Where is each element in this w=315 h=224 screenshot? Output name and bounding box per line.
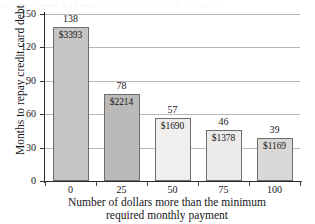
scan-bleed-artifact: the minimum payment on a credit card bal… <box>0 0 315 11</box>
bar-amount-label: $1378 <box>201 133 247 143</box>
x-axis-tick <box>147 181 148 186</box>
bar-value-label: 39 <box>252 125 298 135</box>
bar-amount-label: $1690 <box>150 121 196 131</box>
x-axis-tick-label: 100 <box>255 184 295 195</box>
y-axis-tick <box>40 14 45 15</box>
x-axis-tick-label: 25 <box>102 184 142 195</box>
y-axis-tick-label: 150 <box>10 9 36 19</box>
x-axis-tick-label: 75 <box>204 184 244 195</box>
y-axis-tick-label: 60 <box>10 109 36 119</box>
x-axis-title: Number of dollars more than the minimum … <box>36 196 298 222</box>
y-axis-tick-label: 90 <box>10 76 36 86</box>
x-axis-tick <box>300 181 301 186</box>
x-axis-tick <box>96 181 97 186</box>
y-axis-tick <box>40 114 45 115</box>
x-axis-line <box>44 181 302 182</box>
x-axis-title-line-2: required monthly payment <box>36 209 298 222</box>
bar-amount-label: $1169 <box>252 141 298 151</box>
y-axis-tick <box>40 148 45 149</box>
y-axis-tick <box>40 47 45 48</box>
bar-value-label: 46 <box>201 117 247 127</box>
bar-value-label: 57 <box>150 105 196 115</box>
y-axis-tick <box>40 81 45 82</box>
y-axis-tick-label: 30 <box>10 143 36 153</box>
bar <box>53 27 89 181</box>
x-axis-tick <box>45 181 46 186</box>
x-axis-tick <box>249 181 250 186</box>
x-axis-tick-label: 0 <box>51 184 91 195</box>
bar-amount-label: $3393 <box>48 30 94 40</box>
x-axis-tick-label: 50 <box>153 184 193 195</box>
bar-amount-label: $2214 <box>99 97 145 107</box>
bar-value-label: 78 <box>99 81 145 91</box>
x-axis-title-line-1: Number of dollars more than the minimum <box>36 196 298 209</box>
y-axis-tick-label: 120 <box>10 42 36 52</box>
bar <box>104 94 140 181</box>
y-axis-tick-label: 0 <box>10 176 36 186</box>
x-axis-tick <box>198 181 199 186</box>
bar-value-label: 138 <box>48 14 94 24</box>
bar-chart-figure: the minimum payment on a credit card bal… <box>0 0 315 224</box>
